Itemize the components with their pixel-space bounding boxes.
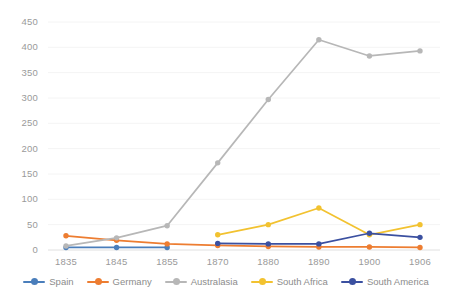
- data-point: [417, 48, 422, 53]
- data-point: [417, 235, 422, 240]
- data-point: [316, 205, 321, 210]
- legend-item-spain[interactable]: Spain: [23, 276, 73, 287]
- data-point: [367, 53, 372, 58]
- y-axis-tick-label: 250: [4, 117, 38, 128]
- legend-marker-icon: [251, 277, 273, 286]
- series-line: [218, 208, 420, 235]
- line-chart: 450400350300250200150100500 183518451855…: [0, 0, 452, 308]
- data-point: [266, 241, 271, 246]
- x-axis-tick-label: 1900: [347, 256, 391, 267]
- y-axis-tick-label: 450: [4, 16, 38, 27]
- legend-item-south-america[interactable]: South America: [341, 276, 429, 287]
- x-axis-tick-label: 1880: [246, 256, 290, 267]
- data-point: [367, 231, 372, 236]
- series-south-africa: [215, 205, 423, 237]
- data-point: [266, 97, 271, 102]
- data-point: [63, 233, 68, 238]
- data-point: [316, 37, 321, 42]
- legend-item-australasia[interactable]: Australasia: [165, 276, 238, 287]
- chart-legend: SpainGermanyAustralasiaSouth AfricaSouth…: [0, 276, 452, 287]
- legend-label: South America: [367, 276, 429, 287]
- data-point: [316, 241, 321, 246]
- legend-marker-icon: [165, 277, 187, 286]
- x-axis-tick-label: 1835: [44, 256, 88, 267]
- legend-item-germany[interactable]: Germany: [87, 276, 152, 287]
- data-point: [215, 232, 220, 237]
- series-spain: [63, 245, 170, 250]
- series-south-america: [215, 231, 423, 247]
- data-point: [417, 245, 422, 250]
- data-point: [266, 222, 271, 227]
- legend-label: Australasia: [191, 276, 238, 287]
- y-axis-tick-label: 100: [4, 193, 38, 204]
- legend-label: Germany: [113, 276, 152, 287]
- data-point: [215, 241, 220, 246]
- x-axis-tick-label: 1906: [398, 256, 442, 267]
- y-axis-tick-label: 0: [4, 244, 38, 255]
- data-point: [417, 222, 422, 227]
- x-axis-tick-label: 1870: [196, 256, 240, 267]
- legend-marker-icon: [341, 277, 363, 286]
- series-line: [66, 40, 420, 246]
- y-axis-tick-label: 150: [4, 168, 38, 179]
- series-australasia: [63, 37, 422, 249]
- data-point: [164, 241, 169, 246]
- y-axis-tick-label: 200: [4, 143, 38, 154]
- data-point: [114, 245, 119, 250]
- legend-label: South Africa: [277, 276, 328, 287]
- x-axis-tick-label: 1845: [95, 256, 139, 267]
- x-axis-tick-label: 1855: [145, 256, 189, 267]
- legend-item-south-africa[interactable]: South Africa: [251, 276, 328, 287]
- data-point: [215, 160, 220, 165]
- y-axis-tick-label: 50: [4, 219, 38, 230]
- data-point: [367, 244, 372, 249]
- data-point: [114, 235, 119, 240]
- y-axis-tick-label: 350: [4, 67, 38, 78]
- y-axis-tick-label: 400: [4, 41, 38, 52]
- data-point: [164, 223, 169, 228]
- x-axis-tick-label: 1890: [297, 256, 341, 267]
- legend-marker-icon: [23, 277, 45, 286]
- legend-marker-icon: [87, 277, 109, 286]
- y-axis-tick-label: 300: [4, 92, 38, 103]
- legend-label: Spain: [49, 276, 73, 287]
- data-point: [63, 243, 68, 248]
